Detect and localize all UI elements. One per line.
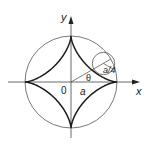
angle-label: θ	[86, 73, 91, 83]
astroid-diagram: y x 0 a θ a/4	[0, 0, 152, 145]
y-axis-arrow-icon	[69, 16, 74, 24]
y-axis-label: y	[60, 11, 68, 23]
origin-label: 0	[61, 85, 67, 96]
small-radius-label: a/4	[103, 65, 116, 75]
x-axis-arrow-icon	[132, 80, 140, 85]
x-axis-label: x	[135, 85, 142, 97]
radius-label: a	[80, 86, 86, 97]
